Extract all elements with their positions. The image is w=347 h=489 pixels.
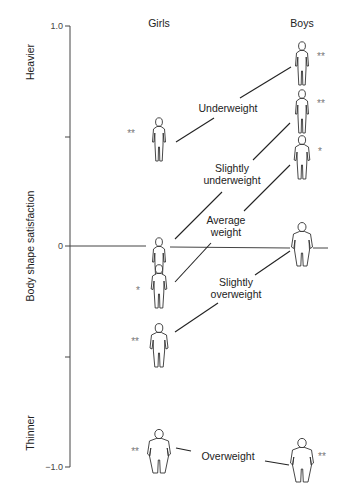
boy-overweight-figure xyxy=(291,438,314,482)
heavier-label: Heavier xyxy=(24,43,36,80)
sig-girl-slightly-overweight: ** xyxy=(131,336,139,347)
label-average-2: weight xyxy=(210,226,241,238)
sig-girl-underweight: ** xyxy=(127,128,135,139)
boy-average-figure xyxy=(294,136,310,179)
label-overweight: Overweight xyxy=(201,450,254,462)
girl-underweight-figure xyxy=(153,118,166,161)
label-slightly-overweight-2: overweight xyxy=(211,288,262,300)
boy-slightly-overweight-figure xyxy=(292,223,313,267)
label-slightly-underweight-1: Slightly xyxy=(215,162,250,174)
tick-label-bottom: −1.0 xyxy=(45,462,63,472)
girl-average-figure xyxy=(151,265,167,308)
girl-slightly-overweight-figure xyxy=(150,324,168,367)
boy-underweight-figure xyxy=(296,42,309,85)
sig-girl-average: * xyxy=(136,285,140,296)
sig-boy-slightly-underweight: ** xyxy=(317,98,325,109)
sig-boy-average: * xyxy=(318,146,322,157)
girls-column-header: Girls xyxy=(148,17,170,29)
chart-canvas: 1.0 0 −1.0 Heavier Body shape satisfacti… xyxy=(0,0,347,489)
girl-overweight-figure xyxy=(148,429,171,473)
sig-girl-overweight: ** xyxy=(131,446,139,457)
y-axis-title: Body shape satisfaction xyxy=(24,190,36,301)
tick-label-top: 1.0 xyxy=(50,21,63,31)
label-average-1: Average xyxy=(207,214,246,226)
boys-column-header: Boys xyxy=(290,17,313,29)
tick-label-zero: 0 xyxy=(58,241,63,251)
y-axis: 1.0 0 −1.0 Heavier Body shape satisfacti… xyxy=(24,21,70,472)
label-slightly-underweight-2: underweight xyxy=(203,174,260,186)
zero-line xyxy=(70,246,328,248)
sig-boy-overweight: ** xyxy=(318,451,326,462)
sig-boy-underweight: ** xyxy=(317,51,325,62)
boy-slightly-underweight-figure xyxy=(296,90,309,133)
label-underweight: Underweight xyxy=(199,102,258,114)
thinner-label: Thinner xyxy=(24,415,36,451)
label-slightly-overweight-1: Slightly xyxy=(219,276,254,288)
